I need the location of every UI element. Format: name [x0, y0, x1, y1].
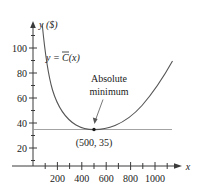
x-axis-title: x: [185, 161, 191, 172]
x-tick-label-400: 400: [74, 173, 89, 184]
curve-label-group: y = C(x): [45, 52, 80, 64]
annotation-line-1: Absolute: [91, 73, 128, 84]
minimum-point-marker: [92, 128, 95, 131]
chart-canvas: 20 40 60 80 100 200 400 600 8: [0, 0, 199, 191]
y-tick-label-100: 100: [12, 43, 27, 54]
annotation-arrowhead-icon: [93, 118, 98, 124]
y-axis-tick-labels: 20 40 60 80 100: [12, 43, 27, 154]
absolute-minimum-annotation: Absolute minimum: [90, 73, 129, 124]
curve-label-function: C(x): [62, 52, 80, 64]
x-tick-label-800: 800: [123, 173, 138, 184]
x-axis-arrow-icon: [174, 163, 182, 169]
annotation-line-2: minimum: [90, 86, 129, 97]
y-tick-label-80: 80: [17, 68, 27, 79]
x-tick-label-200: 200: [50, 173, 65, 184]
y-axis-title: y ($): [38, 19, 58, 31]
y-tick-label-40: 40: [17, 118, 27, 129]
y-axis-arrow-icon: [30, 21, 36, 28]
y-tick-label-20: 20: [17, 143, 27, 154]
x-tick-label-1000: 1000: [145, 173, 165, 184]
curve-label: y =: [45, 52, 60, 63]
cost-curve-figure: 20 40 60 80 100 200 400 600 8: [0, 0, 199, 191]
x-axis-tick-labels: 200 400 600 800 1000: [50, 173, 165, 184]
annotation-leader-line: [96, 100, 104, 121]
minimum-point-label: (500, 35): [76, 137, 113, 149]
x-tick-label-600: 600: [99, 173, 114, 184]
y-tick-label-60: 60: [17, 93, 27, 104]
minimum-point-group: (500, 35): [76, 128, 113, 149]
